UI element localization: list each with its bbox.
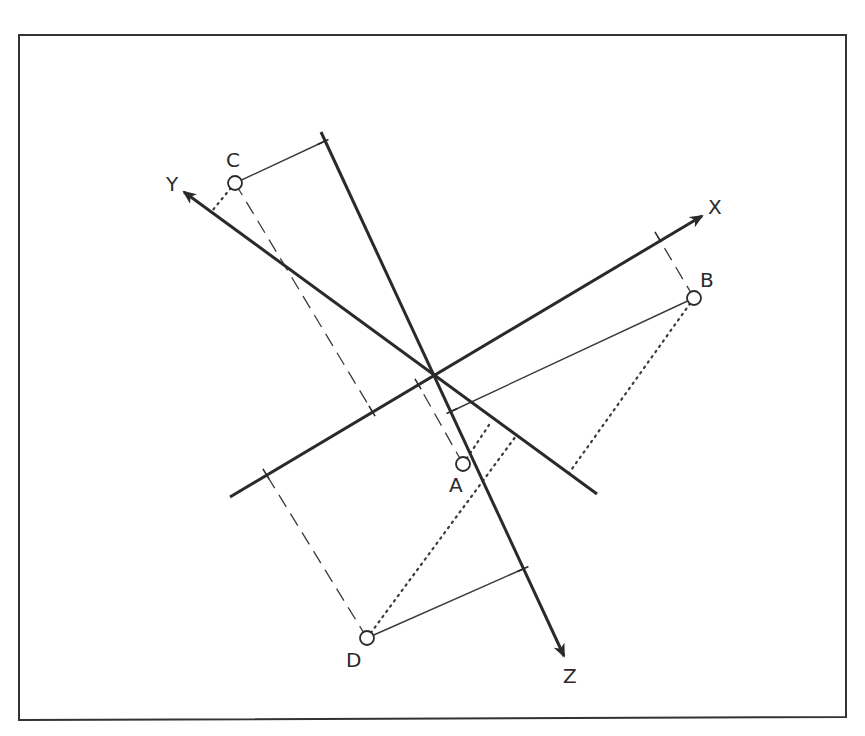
x-axis <box>230 216 702 497</box>
y-axis-label: Y <box>165 172 179 196</box>
point-a-marker <box>456 457 470 471</box>
coordinate-diagram: X Y Z A B C D <box>0 0 865 736</box>
dashed-projection-b <box>658 237 694 298</box>
point-b-label: B <box>700 268 714 292</box>
dashed-projection-d <box>266 474 367 638</box>
dotted-projection-b <box>569 298 694 473</box>
z-axis-solid-projections <box>235 142 694 638</box>
point-a-label: A <box>449 473 463 497</box>
dotted-projection-d <box>367 436 516 638</box>
y-axis <box>184 192 597 494</box>
axis-ticks <box>263 139 661 571</box>
x-axis-label: X <box>708 195 722 219</box>
points: A B C D <box>226 148 714 672</box>
z-axis <box>321 132 564 656</box>
dashed-projection-c <box>235 183 372 411</box>
z-axis-label: Z <box>563 664 577 688</box>
point-c-label: C <box>226 148 240 172</box>
point-c-marker <box>228 176 242 190</box>
x-axis-dashed-projections <box>235 183 694 638</box>
solid-projection-c <box>235 142 323 183</box>
point-d-marker <box>360 631 374 645</box>
solid-projection-b <box>452 298 694 411</box>
point-b-marker <box>687 291 701 305</box>
solid-projection-d <box>367 569 523 638</box>
point-d-label: D <box>346 648 361 672</box>
